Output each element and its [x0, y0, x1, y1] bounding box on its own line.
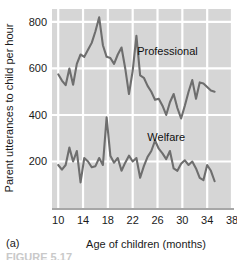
x-axis-tick-labels: 1014182226303438	[52, 214, 237, 226]
x-tick-label: 18	[102, 214, 114, 226]
x-tick-label: 30	[176, 214, 188, 226]
figure-caption-sliver: FIGURE 5.17	[6, 252, 126, 260]
x-tick-label: 34	[201, 214, 213, 226]
y-tick-label: 800	[29, 16, 47, 28]
panel-label: (a)	[6, 237, 19, 249]
x-axis-title: Age of children (months)	[86, 238, 206, 250]
y-axis-title: Parent utterances to child per hour	[3, 23, 15, 192]
x-tick-label: 10	[52, 214, 64, 226]
x-tick-label: 14	[77, 214, 89, 226]
x-tick-label: 38	[226, 214, 237, 226]
y-tick-label: 200	[29, 155, 47, 167]
series-label-welfare: Welfare	[147, 131, 185, 143]
series-label-professional: Professional	[137, 45, 198, 57]
x-tick-label: 22	[127, 214, 139, 226]
y-tick-label: 600	[29, 62, 47, 74]
line-chart: 200400600800 1014182226303438 Profession…	[0, 0, 237, 260]
figure-panel-a: 200400600800 1014182226303438 Profession…	[0, 0, 237, 260]
y-axis-tick-labels: 200400600800	[29, 16, 47, 168]
x-tick-label: 26	[151, 214, 163, 226]
y-tick-label: 400	[29, 109, 47, 121]
